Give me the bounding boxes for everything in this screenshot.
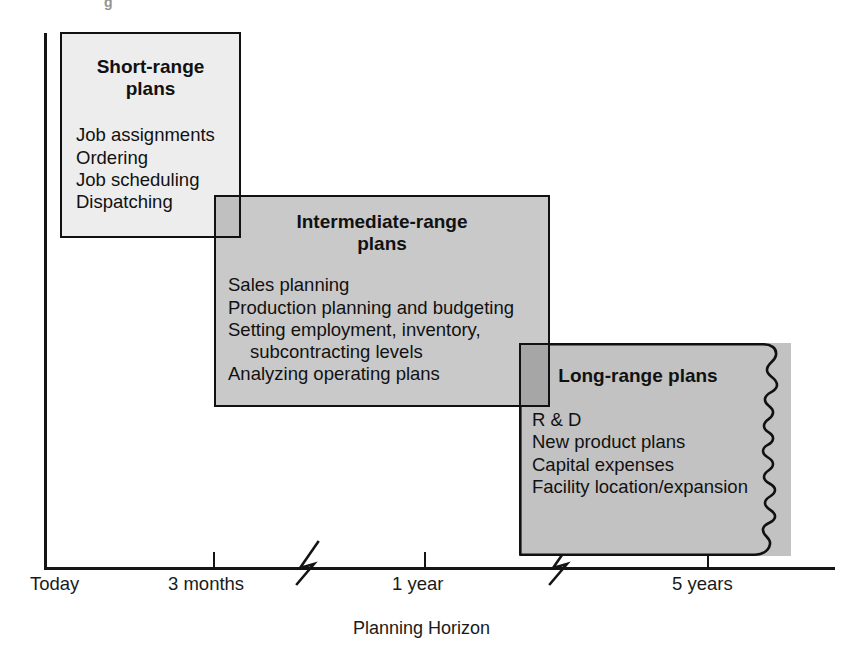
short-range-title-line1: Short-range [62, 56, 239, 78]
list-item: Sales planning [228, 274, 548, 296]
intermediate-range-title: Intermediate-range plans [216, 197, 548, 255]
horizontal-axis-line [44, 567, 835, 570]
long-range-plans-box: Long-range plans R & D New product plans… [519, 343, 791, 556]
list-item: Capital expenses [532, 454, 791, 476]
short-range-items: Job assignments Ordering Job scheduling … [62, 100, 239, 213]
tick-label-3-months: 3 months [168, 573, 244, 595]
list-item: Facility location/expansion [532, 476, 791, 498]
tick-3-months [213, 552, 215, 567]
intermediate-range-items: Sales planning Production planning and b… [216, 255, 548, 385]
axis-title: Planning Horizon [0, 618, 843, 639]
overlap-intermediate-long [519, 343, 550, 407]
list-item: Setting employment, inventory, [228, 319, 548, 341]
list-item: Job scheduling [76, 169, 239, 191]
list-item: Ordering [76, 147, 239, 169]
intermediate-range-title-line2: plans [216, 233, 548, 255]
long-range-items: R & D New product plans Capital expenses… [519, 387, 791, 498]
overlap-short-intermediate [214, 195, 241, 238]
long-range-title: Long-range plans [519, 343, 791, 387]
short-range-title: Short-range plans [62, 34, 239, 100]
tick-label-5-years: 5 years [672, 573, 733, 595]
short-range-title-line2: plans [62, 78, 239, 100]
axis-break-1 [288, 540, 328, 586]
list-item: subcontracting levels [228, 341, 548, 363]
planning-horizon-diagram: g Today 3 months 1 year 5 years Planning… [0, 0, 843, 667]
cropped-text-fragment: g [104, 0, 113, 10]
vertical-axis-line [44, 33, 47, 570]
intermediate-range-plans-box: Intermediate-range plans Sales planning … [214, 195, 550, 407]
list-item: R & D [532, 409, 791, 431]
tick-1-year [424, 552, 426, 567]
list-item: Job assignments [76, 124, 239, 146]
intermediate-range-title-line1: Intermediate-range [216, 211, 548, 233]
tick-label-1-year: 1 year [392, 573, 443, 595]
list-item: Production planning and budgeting [228, 297, 548, 319]
tick-label-today: Today [30, 573, 79, 595]
list-item: Analyzing operating plans [228, 363, 548, 385]
list-item: New product plans [532, 431, 791, 453]
